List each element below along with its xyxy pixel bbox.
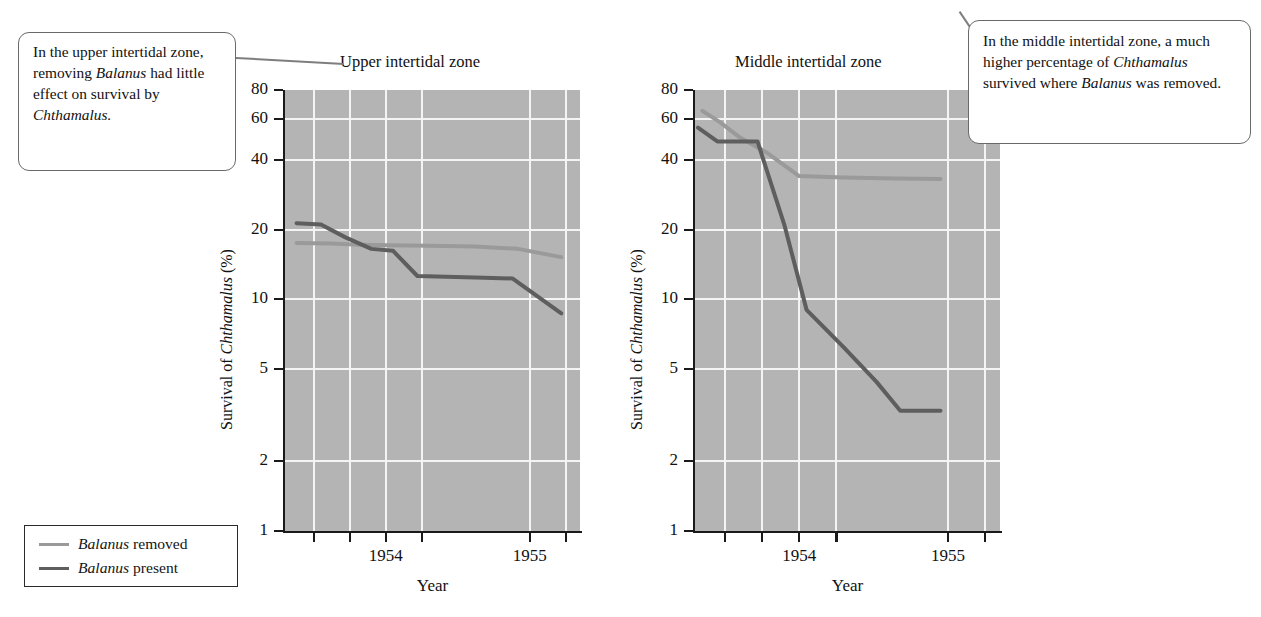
- y-axis-tick-label: 40: [638, 149, 678, 169]
- legend-item-balanus-present: Balanus present: [39, 556, 237, 580]
- x-axis-tick: [835, 531, 837, 542]
- y-axis-middle: [693, 90, 695, 533]
- x-axis-tick: [724, 531, 726, 542]
- y-axis-label-middle: Survival of Chthamalus (%): [628, 249, 646, 430]
- chart-panel-upper-intertidal: Upper intertidal zone Survival of Chtham…: [200, 0, 620, 617]
- upper-intertidal-callout: In the upper intertidal zone, removing B…: [18, 32, 236, 171]
- y-axis-tick: [684, 229, 693, 231]
- y-axis-tick: [274, 298, 283, 300]
- y-axis-tick: [274, 229, 283, 231]
- y-axis-tick: [274, 530, 283, 532]
- y-axis-tick-label: 20: [638, 219, 678, 239]
- x-axis-label-upper: Year: [285, 576, 580, 596]
- y-axis-tick: [274, 368, 283, 370]
- x-axis-upper: [283, 531, 582, 533]
- x-axis-tick: [761, 531, 763, 542]
- y-axis-label-upper: Survival of Chthamalus (%): [218, 249, 236, 430]
- legend-swatch-balanus-present: [39, 567, 69, 570]
- y-axis-tick-label: 20: [228, 219, 268, 239]
- y-axis-tick: [274, 460, 283, 462]
- series-layer: [695, 90, 1000, 531]
- x-axis-middle: [693, 531, 1002, 533]
- series-line-balanus-present: [297, 223, 562, 313]
- plot-area-upper: [285, 90, 580, 531]
- y-axis-upper: [283, 90, 285, 533]
- y-axis-tick-label: 2: [638, 450, 678, 470]
- y-axis-tick: [684, 298, 693, 300]
- x-axis-tick: [529, 531, 531, 542]
- y-axis-tick: [274, 89, 283, 91]
- y-axis-tick: [274, 118, 283, 120]
- y-axis-tick-label: 5: [228, 358, 268, 378]
- y-axis-tick-label: 10: [228, 288, 268, 308]
- callout-middle-text: In the middle intertidal zone, a much hi…: [983, 32, 1221, 91]
- y-axis-tick-label: 1: [638, 520, 678, 540]
- x-axis-tick-label: 1954: [356, 546, 416, 566]
- plot-area-middle: [695, 90, 1000, 531]
- callout-upper-text: In the upper intertidal zone, removing B…: [33, 43, 204, 123]
- legend-label-balanus-removed: Balanus removed: [78, 535, 188, 553]
- x-axis-tick: [349, 531, 351, 542]
- y-axis-tick: [684, 118, 693, 120]
- series-line-balanus-removed: [702, 111, 940, 179]
- x-axis-tick: [984, 531, 986, 542]
- y-axis-tick-label: 10: [638, 288, 678, 308]
- y-axis-tick-label: 5: [638, 358, 678, 378]
- legend-swatch-balanus-removed: [39, 543, 69, 546]
- legend: Balanus removed Balanus present: [24, 525, 238, 587]
- x-axis-tick: [421, 531, 423, 542]
- x-axis-tick: [798, 531, 800, 542]
- legend-label-balanus-present: Balanus present: [78, 559, 178, 577]
- x-axis-tick-label: 1954: [769, 546, 829, 566]
- x-axis-label-middle: Year: [695, 576, 1000, 596]
- series-line-balanus-removed: [297, 243, 562, 257]
- y-axis-tick: [684, 89, 693, 91]
- x-axis-tick: [565, 531, 567, 542]
- y-axis-tick: [684, 460, 693, 462]
- y-axis-tick: [684, 159, 693, 161]
- y-axis-tick-label: 60: [638, 108, 678, 128]
- x-axis-tick: [947, 531, 949, 542]
- series-layer: [285, 90, 580, 531]
- y-axis-tick: [684, 530, 693, 532]
- middle-intertidal-callout: In the middle intertidal zone, a much hi…: [968, 20, 1251, 144]
- legend-item-balanus-removed: Balanus removed: [39, 532, 237, 556]
- x-axis-tick: [313, 531, 315, 542]
- y-axis-tick: [684, 368, 693, 370]
- y-axis-tick: [274, 159, 283, 161]
- y-axis-tick-label: 80: [638, 79, 678, 99]
- chart-title-upper: Upper intertidal zone: [340, 52, 480, 72]
- x-axis-tick-label: 1955: [918, 546, 978, 566]
- chart-title-middle: Middle intertidal zone: [735, 52, 882, 72]
- y-axis-tick-label: 2: [228, 450, 268, 470]
- series-line-balanus-present: [698, 128, 941, 411]
- x-axis-tick: [385, 531, 387, 542]
- x-axis-tick-label: 1955: [500, 546, 560, 566]
